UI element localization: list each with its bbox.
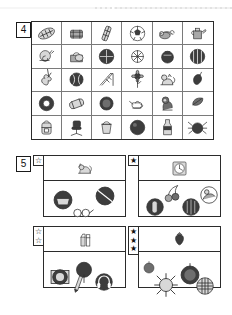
- milk-carton-icon: [75, 230, 94, 249]
- option-4[interactable]: [197, 183, 221, 207]
- fox-icon: [75, 159, 94, 178]
- grid-cell-8[interactable]: [62, 45, 92, 68]
- worksheet-page: 4 5 ☆ ★ ☆☆ ★★★: [0, 0, 232, 315]
- grid-cell-28[interactable]: [122, 116, 152, 139]
- bucket-icon: [96, 117, 117, 138]
- dark-disc-icon: [92, 183, 118, 209]
- tyre-icon: [36, 93, 57, 114]
- grid-cell-12[interactable]: [183, 45, 213, 68]
- option-3[interactable]: [70, 201, 94, 225]
- snail-icon: [36, 46, 57, 67]
- option-2[interactable]: [92, 183, 118, 209]
- panel-1-options: [44, 181, 125, 216]
- teapot-icon: [127, 93, 148, 114]
- star-outline: ☆: [35, 237, 42, 246]
- grid-cell-24[interactable]: [183, 92, 213, 115]
- option-2[interactable]: [153, 272, 179, 298]
- grid-cell-13[interactable]: [32, 69, 62, 92]
- grid-cell-19[interactable]: [32, 92, 62, 115]
- panel-4[interactable]: [138, 226, 221, 288]
- grid-cell-26[interactable]: [62, 116, 92, 139]
- grid-cell-9[interactable]: [92, 45, 122, 68]
- grid-cell-27[interactable]: [92, 116, 122, 139]
- panel-3[interactable]: [43, 226, 126, 288]
- panel-2-options: [139, 181, 220, 216]
- round-cake-icon: [96, 93, 117, 114]
- soccer-ball-icon: [127, 23, 148, 44]
- mouse-icon: [157, 23, 178, 44]
- pencil-icon: [68, 274, 88, 294]
- baseball-icon: [66, 69, 87, 90]
- panel-1-target-image: [44, 156, 125, 181]
- grid-cell-16[interactable]: [122, 69, 152, 92]
- option-4[interactable]: [92, 270, 116, 294]
- violin-icon: [36, 69, 57, 90]
- grid-cell-14[interactable]: [62, 69, 92, 92]
- panel-4-target-image: [139, 227, 220, 252]
- strawberry-icon: [170, 230, 189, 249]
- grid-cell-5[interactable]: [153, 22, 183, 45]
- panel-3-options: [44, 252, 125, 287]
- grid-cell-20[interactable]: [62, 92, 92, 115]
- star-filled: ★: [130, 245, 137, 254]
- grid-cell-10[interactable]: [122, 45, 152, 68]
- grid-cell-15[interactable]: [92, 69, 122, 92]
- bottle-icon: [157, 117, 178, 138]
- teapot-dark-icon: [157, 46, 178, 67]
- grid-cell-18[interactable]: [183, 69, 213, 92]
- spiky-burr-icon: [153, 272, 179, 298]
- wall-clock-icon: [170, 159, 189, 178]
- panel-1[interactable]: [43, 155, 126, 217]
- panel-2[interactable]: [138, 155, 221, 217]
- leaf-icon: [187, 93, 208, 114]
- circle-scene-icon: [197, 183, 221, 207]
- grid-cell-23[interactable]: [153, 92, 183, 115]
- grid-cell-17[interactable]: [153, 69, 183, 92]
- pillow-icon: [66, 93, 87, 114]
- grid-cell-4[interactable]: [122, 22, 152, 45]
- melon-icon: [187, 46, 208, 67]
- star-filled: ★: [130, 157, 137, 165]
- panel-4-options: [139, 252, 220, 287]
- cat-icon: [157, 69, 178, 90]
- option-3[interactable]: [68, 274, 88, 294]
- top-dotted-rule: [0, 7, 232, 9]
- shell-icon: [127, 46, 148, 67]
- exercise-number-4: 4: [16, 22, 31, 38]
- watering-can-icon: [187, 23, 208, 44]
- grid-cell-6[interactable]: [183, 22, 213, 45]
- pepper-icon: [187, 69, 208, 90]
- gorilla-icon: [157, 93, 178, 114]
- rugby-ball-icon: [36, 23, 57, 44]
- spider-icon: [187, 117, 208, 138]
- drum-icon: [66, 23, 87, 44]
- grid-cell-11[interactable]: [153, 45, 183, 68]
- grid-cell-1[interactable]: [32, 22, 62, 45]
- grid-cell-21[interactable]: [92, 92, 122, 115]
- grid-cell-22[interactable]: [122, 92, 152, 115]
- panel-2-target-image: [139, 156, 220, 181]
- backpack-icon: [36, 117, 57, 138]
- exercise-number-5: 5: [16, 156, 31, 172]
- chocolate-bar-icon: [96, 23, 117, 44]
- grid-cell-2[interactable]: [62, 22, 92, 45]
- handbag-icon: [66, 46, 87, 67]
- dark-sphere-icon: [127, 117, 148, 138]
- grid-cell-30[interactable]: [183, 116, 213, 139]
- grid-cell-25[interactable]: [32, 116, 62, 139]
- panel-3-target-image: [44, 227, 125, 252]
- exercise-4-picture-grid: [31, 21, 214, 140]
- grid-cell-7[interactable]: [32, 45, 62, 68]
- glasses-icon: [70, 201, 94, 225]
- sunflower-icon: [127, 69, 148, 90]
- option-4[interactable]: [193, 274, 217, 298]
- grid-cell-3[interactable]: [92, 22, 122, 45]
- grid-cell-29[interactable]: [153, 116, 183, 139]
- dark-ball-icon: [96, 46, 117, 67]
- star-outline: ☆: [35, 157, 42, 165]
- office-chair-icon: [66, 117, 87, 138]
- slide-icon: [96, 69, 117, 90]
- striped-ball-icon: [193, 274, 217, 298]
- headphones-icon: [92, 270, 116, 294]
